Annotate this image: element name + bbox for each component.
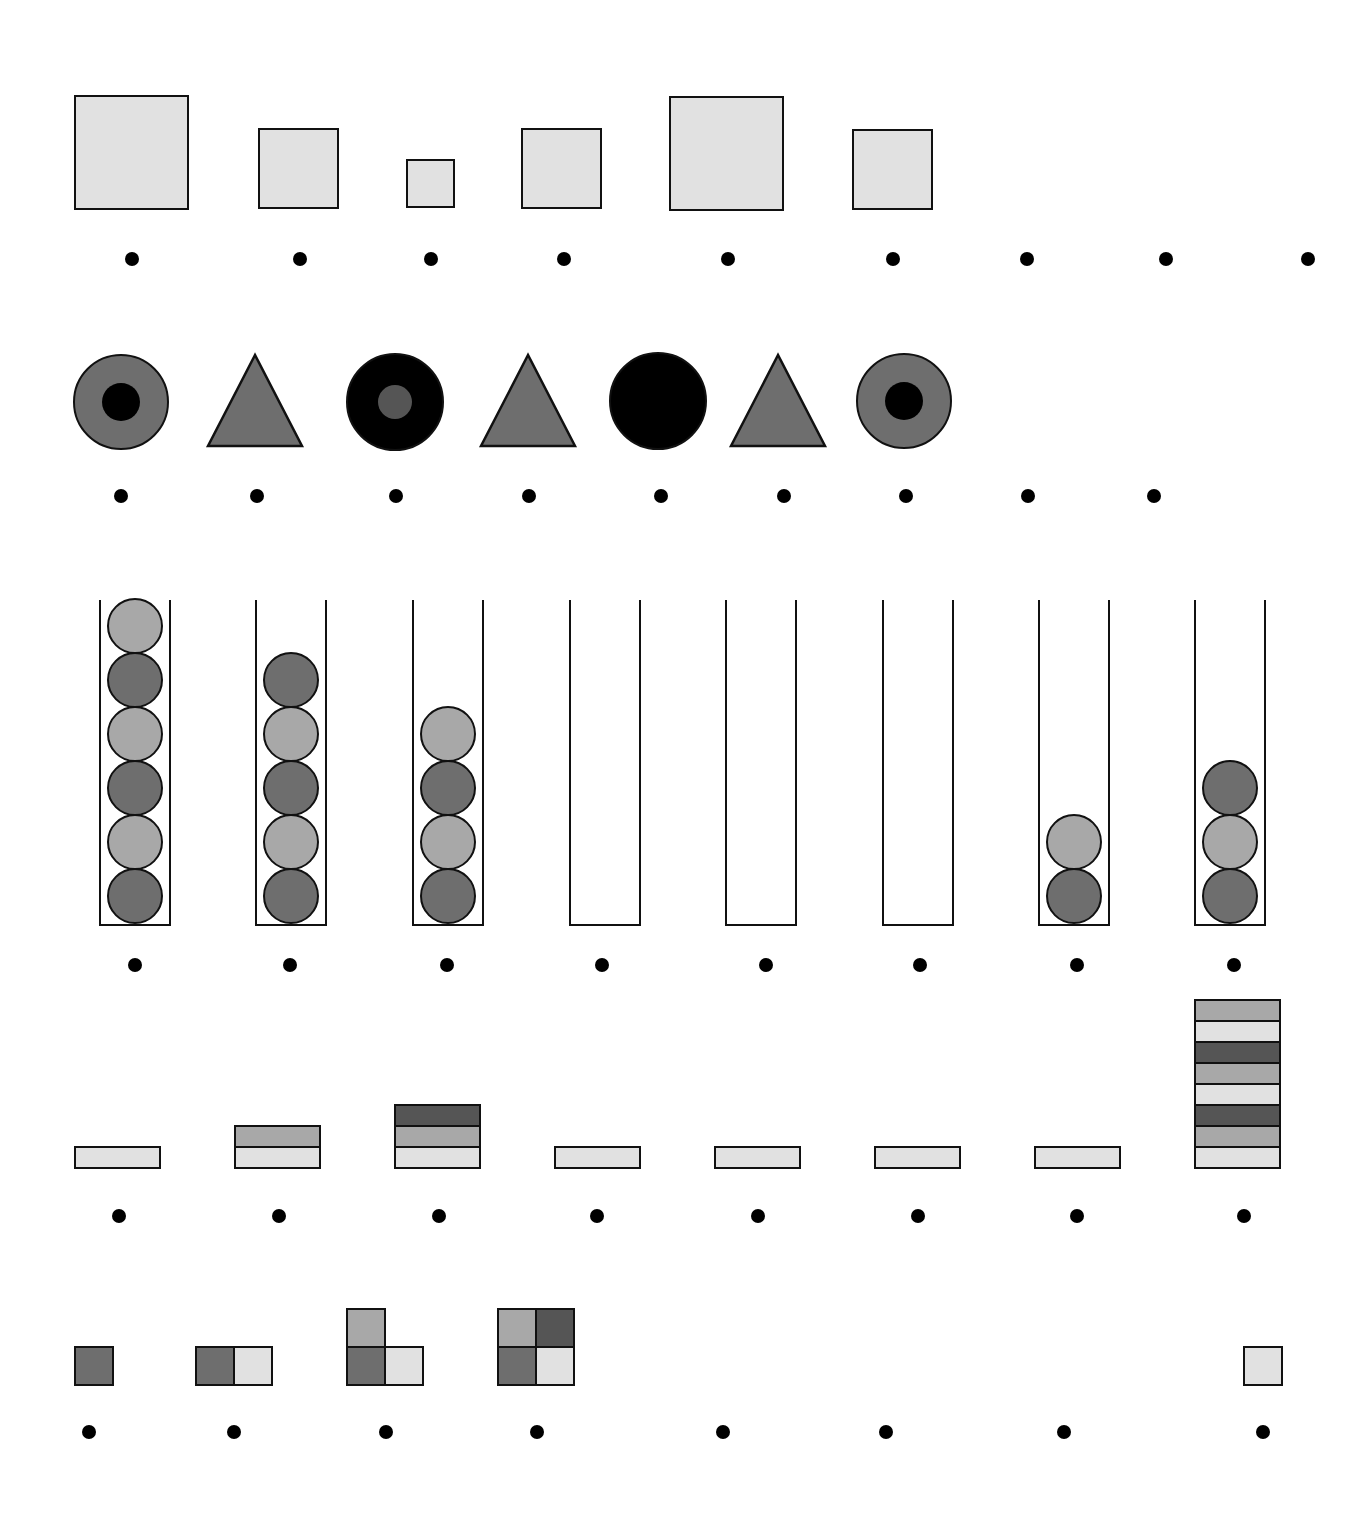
grids-slot-dot[interactable] bbox=[530, 1425, 544, 1439]
tube bbox=[255, 600, 327, 926]
tube bbox=[99, 600, 171, 926]
ring-inner-circle bbox=[885, 382, 923, 420]
stack-layer bbox=[714, 1146, 801, 1169]
shapes-slot-dot[interactable] bbox=[389, 489, 403, 503]
ball bbox=[263, 814, 319, 870]
stack-layer bbox=[394, 1125, 481, 1148]
grid-cell bbox=[497, 1346, 537, 1386]
grid-cell bbox=[346, 1346, 386, 1386]
shapes-slot-dot[interactable] bbox=[250, 489, 264, 503]
ball bbox=[1202, 814, 1258, 870]
stack-layer bbox=[1194, 1125, 1281, 1148]
tubes-slot-dot[interactable] bbox=[128, 958, 142, 972]
stacks-slot-dot[interactable] bbox=[432, 1209, 446, 1223]
tubes-slot-dot[interactable] bbox=[1070, 958, 1084, 972]
grid-cell bbox=[497, 1308, 537, 1348]
grid-cell bbox=[74, 1346, 114, 1386]
tubes-slot-dot[interactable] bbox=[759, 958, 773, 972]
shapes-slot-dot[interactable] bbox=[522, 489, 536, 503]
ball bbox=[107, 814, 163, 870]
grids-slot-dot[interactable] bbox=[379, 1425, 393, 1439]
stack-layer bbox=[874, 1146, 961, 1169]
ball bbox=[107, 868, 163, 924]
stack-layer bbox=[1194, 1062, 1281, 1085]
ball bbox=[263, 760, 319, 816]
tube bbox=[725, 600, 797, 926]
stacks-slot-dot[interactable] bbox=[911, 1209, 925, 1223]
tubes-slot-dot[interactable] bbox=[595, 958, 609, 972]
grid-cell bbox=[195, 1346, 235, 1386]
stack-layer bbox=[394, 1104, 481, 1127]
stacks-slot-dot[interactable] bbox=[1070, 1209, 1084, 1223]
grids-slot-dot[interactable] bbox=[1256, 1425, 1270, 1439]
stack-layer bbox=[1194, 1146, 1281, 1169]
stack-layer bbox=[74, 1146, 161, 1169]
tubes-slot-dot[interactable] bbox=[913, 958, 927, 972]
triangle-shape bbox=[208, 355, 302, 446]
ball bbox=[420, 868, 476, 924]
ball bbox=[263, 868, 319, 924]
stack-layer bbox=[554, 1146, 641, 1169]
grid-cell bbox=[535, 1346, 575, 1386]
grid-cell bbox=[384, 1346, 424, 1386]
grids-slot-dot[interactable] bbox=[1057, 1425, 1071, 1439]
ball bbox=[1202, 868, 1258, 924]
grids-slot-dot[interactable] bbox=[879, 1425, 893, 1439]
stack-layer bbox=[1194, 1020, 1281, 1043]
stack-layer bbox=[1194, 999, 1281, 1022]
tubes-slot-dot[interactable] bbox=[440, 958, 454, 972]
grids-slot-dot[interactable] bbox=[716, 1425, 730, 1439]
ring-inner-circle bbox=[102, 383, 140, 421]
stack-layer bbox=[394, 1146, 481, 1169]
tube bbox=[882, 600, 954, 926]
grids-slot-dot[interactable] bbox=[82, 1425, 96, 1439]
grid-cell bbox=[1243, 1346, 1283, 1386]
ball bbox=[420, 760, 476, 816]
ball bbox=[107, 598, 163, 654]
shapes-slot-dot[interactable] bbox=[1147, 489, 1161, 503]
triangle-shape bbox=[731, 355, 825, 446]
tube bbox=[1194, 600, 1266, 926]
ball bbox=[107, 652, 163, 708]
stacks-slot-dot[interactable] bbox=[590, 1209, 604, 1223]
grid-cell bbox=[233, 1346, 273, 1386]
ball bbox=[263, 706, 319, 762]
ball bbox=[1046, 814, 1102, 870]
ball bbox=[263, 652, 319, 708]
shapes-slot-dot[interactable] bbox=[654, 489, 668, 503]
grid-cell bbox=[535, 1308, 575, 1348]
stack-layer bbox=[1034, 1146, 1121, 1169]
ball bbox=[420, 706, 476, 762]
pattern-puzzle-canvas bbox=[0, 0, 1365, 1525]
shapes-slot-dot[interactable] bbox=[899, 489, 913, 503]
stack-layer bbox=[1194, 1041, 1281, 1064]
stacks-slot-dot[interactable] bbox=[112, 1209, 126, 1223]
ball bbox=[1046, 868, 1102, 924]
tube bbox=[569, 600, 641, 926]
stack-layer bbox=[234, 1125, 321, 1148]
tubes-slot-dot[interactable] bbox=[283, 958, 297, 972]
stacks-slot-dot[interactable] bbox=[1237, 1209, 1251, 1223]
tube bbox=[1038, 600, 1110, 926]
ball bbox=[107, 706, 163, 762]
shapes-layer bbox=[0, 0, 1365, 1525]
stack-layer bbox=[1194, 1104, 1281, 1127]
ring-inner-circle bbox=[378, 385, 412, 419]
stacks-slot-dot[interactable] bbox=[272, 1209, 286, 1223]
triangle-shape bbox=[481, 355, 575, 446]
shapes-slot-dot[interactable] bbox=[114, 489, 128, 503]
stack-layer bbox=[234, 1146, 321, 1169]
shapes-slot-dot[interactable] bbox=[1021, 489, 1035, 503]
shapes-slot-dot[interactable] bbox=[777, 489, 791, 503]
tubes-slot-dot[interactable] bbox=[1227, 958, 1241, 972]
tube bbox=[412, 600, 484, 926]
stacks-slot-dot[interactable] bbox=[751, 1209, 765, 1223]
ball bbox=[107, 760, 163, 816]
disc-shape bbox=[610, 353, 706, 449]
ball bbox=[1202, 760, 1258, 816]
grid-cell bbox=[346, 1308, 386, 1348]
ball bbox=[420, 814, 476, 870]
grids-slot-dot[interactable] bbox=[227, 1425, 241, 1439]
stack-layer bbox=[1194, 1083, 1281, 1106]
